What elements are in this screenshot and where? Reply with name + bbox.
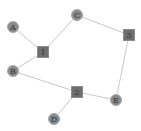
node-label: 1 (40, 48, 45, 57)
node-1: 1 (38, 47, 49, 58)
node-label: B (10, 67, 16, 76)
graph-diagram: ABCDE123 (0, 0, 141, 131)
nodes-layer: ABCDE123 (8, 10, 135, 125)
node-A: A (8, 22, 19, 33)
node-E: E (111, 95, 122, 106)
edge-3-E (116, 35, 129, 100)
node-label: A (9, 23, 16, 32)
node-label: 3 (126, 31, 131, 40)
node-label: C (74, 11, 80, 20)
node-D: D (49, 114, 60, 125)
node-3: 3 (124, 30, 135, 41)
node-label: D (51, 115, 57, 124)
node-label: E (113, 96, 119, 105)
node-C: C (72, 10, 83, 21)
edge-C-3 (77, 15, 129, 35)
node-B: B (8, 66, 19, 77)
node-label: 2 (74, 88, 79, 97)
edge-B-2 (13, 71, 77, 92)
node-2: 2 (72, 87, 83, 98)
